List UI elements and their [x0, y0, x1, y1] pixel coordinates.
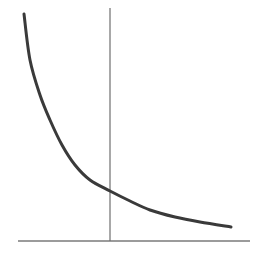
decay-curve — [24, 14, 231, 227]
decay-curve-chart — [0, 0, 260, 262]
